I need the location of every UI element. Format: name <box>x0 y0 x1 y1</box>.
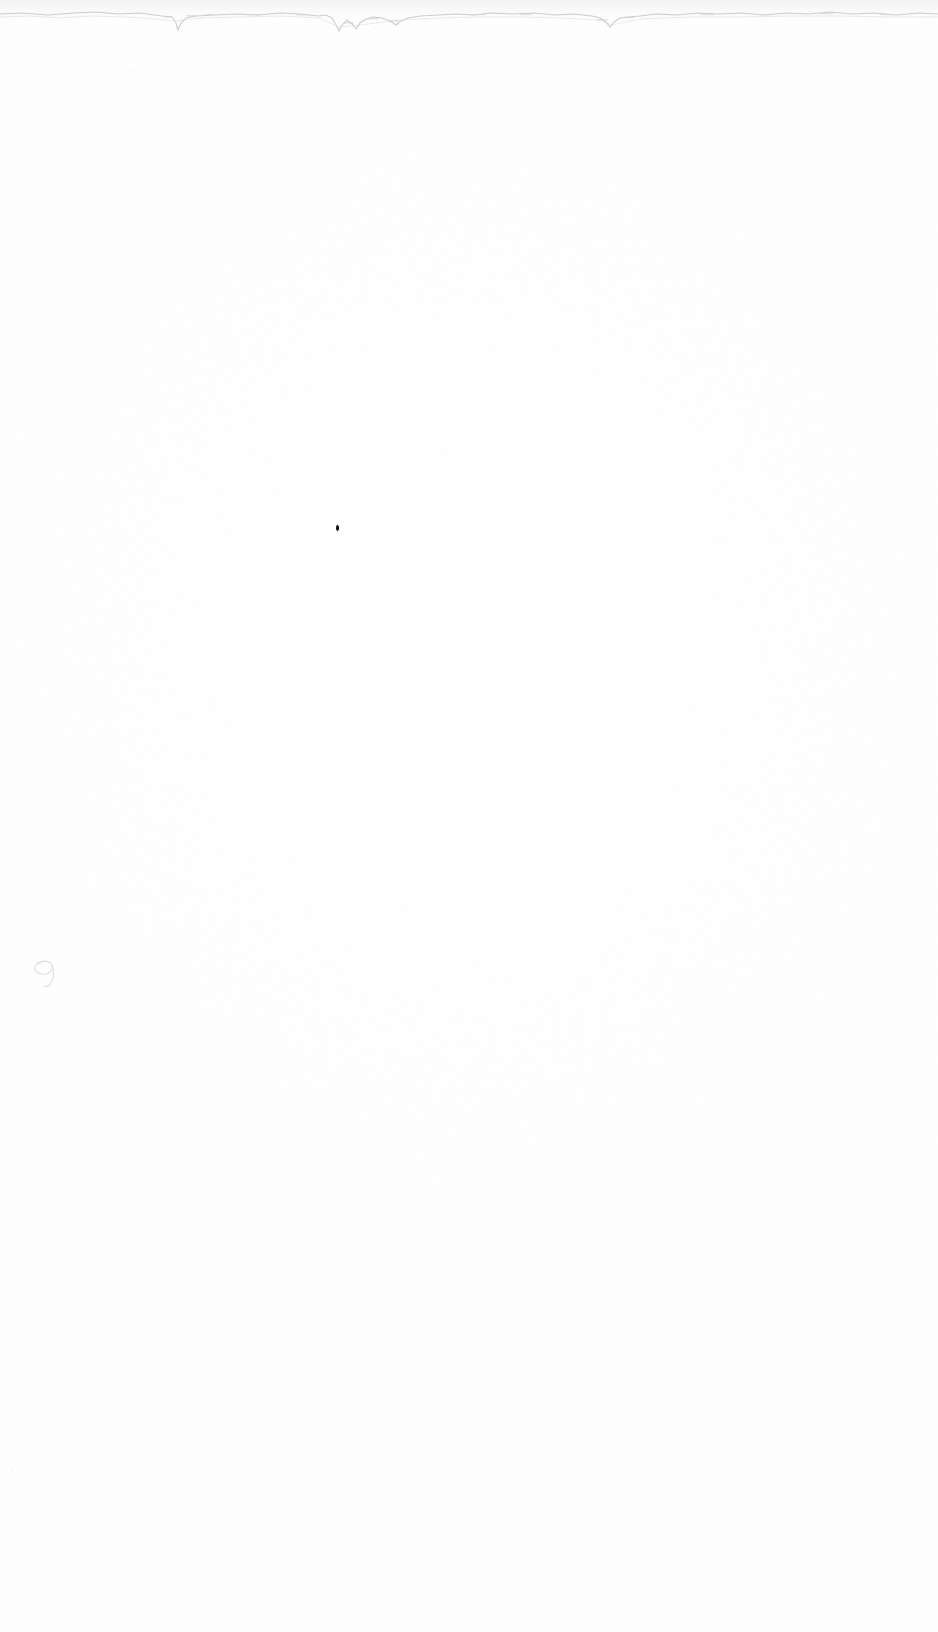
dust-speck <box>443 455 445 457</box>
dust-speck <box>666 1491 668 1493</box>
scanned-page <box>0 0 938 1632</box>
ink-speck <box>336 525 339 531</box>
dust-speck <box>793 1125 795 1127</box>
dust-speck <box>11 1470 13 1472</box>
paper-surface <box>0 0 938 1632</box>
dust-speck <box>132 70 134 72</box>
